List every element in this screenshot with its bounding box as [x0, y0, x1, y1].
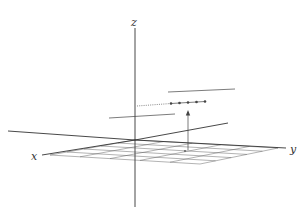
x-axis-label: x: [31, 150, 38, 163]
grid-line: [101, 146, 247, 154]
dot: [187, 101, 190, 104]
x-axis-back-line: [8, 131, 135, 140]
grid-line: [84, 149, 231, 158]
x-axis-line: [42, 140, 135, 155]
grid-line: [80, 142, 164, 157]
z-axis-label: z: [130, 16, 137, 29]
upper-horizontal-segment: [168, 89, 235, 92]
grid-line: [67, 152, 216, 161]
grid-line: [50, 155, 200, 164]
dot: [170, 102, 173, 105]
dotted-projection-line: [137, 104, 171, 107]
dot: [195, 101, 198, 104]
dot: [204, 100, 207, 103]
grid-line: [140, 145, 221, 161]
grid-line: [170, 146, 249, 162]
grid-line: [110, 143, 192, 158]
grid-line: [118, 143, 262, 151]
diagram-canvas: z x y: [0, 0, 303, 221]
y-axis-back-line: [135, 123, 228, 140]
row-of-dots: [170, 100, 207, 105]
y-axis-label: y: [289, 143, 297, 156]
dot: [178, 102, 181, 105]
arrow-head-icon: [186, 110, 190, 116]
grid-line: [200, 148, 278, 164]
arrow-base-point: [184, 150, 186, 152]
lower-horizontal-segment: [109, 114, 175, 118]
xy-grid: [50, 140, 278, 164]
